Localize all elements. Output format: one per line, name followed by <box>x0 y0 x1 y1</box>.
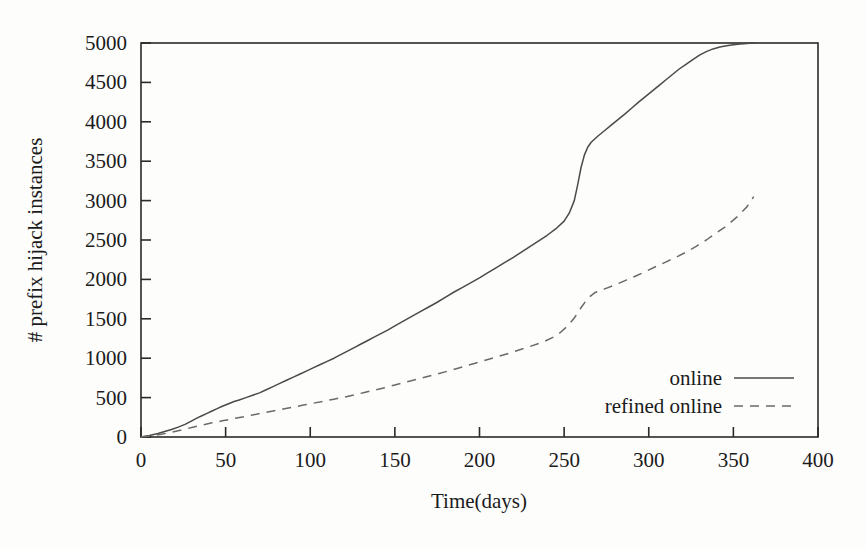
legend: onlinerefined online <box>605 366 794 418</box>
x-tick-label: 100 <box>295 448 327 472</box>
data-series-group <box>141 43 755 437</box>
y-axis-tick-labels: 0500100015002000250030003500400045005000 <box>85 31 127 449</box>
x-tick-label: 350 <box>718 448 750 472</box>
x-axis-title: Time(days) <box>431 489 527 513</box>
y-tick-label: 5000 <box>85 31 127 55</box>
chart-page: 0500100015002000250030003500400045005000… <box>0 0 867 549</box>
x-axis-tick-labels: 050100150200250300350400 <box>136 448 834 472</box>
y-tick-label: 2500 <box>85 228 127 252</box>
y-tick-label: 500 <box>96 386 128 410</box>
legend-label-online: online <box>670 366 723 390</box>
y-tick-label: 4500 <box>85 70 127 94</box>
x-tick-label: 300 <box>633 448 665 472</box>
y-tick-label: 2000 <box>85 267 127 291</box>
legend-label-refined-online: refined online <box>605 394 722 418</box>
x-tick-label: 50 <box>215 448 236 472</box>
y-tick-label: 0 <box>117 425 128 449</box>
line-chart: 0500100015002000250030003500400045005000… <box>0 0 867 549</box>
x-tick-label: 250 <box>548 448 580 472</box>
y-tick-label: 3500 <box>85 149 127 173</box>
y-tick-label: 1000 <box>85 346 127 370</box>
x-axis-ticks <box>141 427 818 437</box>
y-axis-title: # prefix hijack instances <box>23 138 47 343</box>
x-tick-label: 200 <box>464 448 496 472</box>
y-tick-label: 3000 <box>85 189 127 213</box>
x-tick-label: 400 <box>802 448 834 472</box>
x-tick-label: 150 <box>379 448 411 472</box>
x-tick-label: 0 <box>136 448 147 472</box>
y-axis-ticks <box>141 43 151 437</box>
series-line-online <box>141 43 755 437</box>
y-tick-label: 1500 <box>85 307 127 331</box>
y-tick-label: 4000 <box>85 110 127 134</box>
